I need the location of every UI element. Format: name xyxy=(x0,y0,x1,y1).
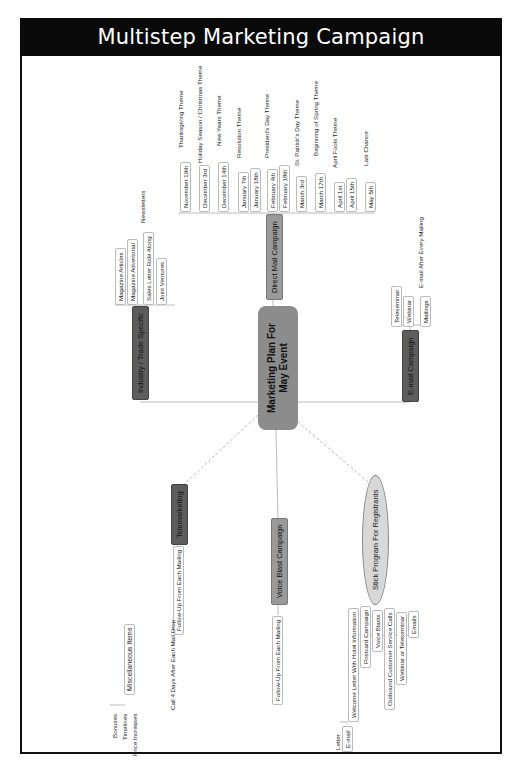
welcome-sub-item[interactable]: E-mail xyxy=(342,726,353,752)
email-item[interactable]: Webinar xyxy=(403,296,414,327)
date-node[interactable]: December 14th xyxy=(218,162,229,212)
stick-item[interactable]: Webinar or Teleseminar xyxy=(396,612,407,685)
branch-voice-blast[interactable]: Voice Blast Campaign xyxy=(271,518,288,605)
branch-email[interactable]: E-mail Campaign xyxy=(402,330,419,402)
date-node[interactable]: December 3rd xyxy=(199,165,210,212)
voice-blast-item[interactable]: Follow-Up From Each Mailing xyxy=(272,616,283,705)
industry-item[interactable]: Magazine Advertorial xyxy=(127,239,138,305)
branch-telemarketing[interactable]: Telemarketing xyxy=(171,484,188,545)
date-node[interactable]: March 17th xyxy=(315,173,326,212)
misc-item: Price Increases xyxy=(130,711,139,758)
date-node[interactable]: April 1st xyxy=(334,182,345,212)
central-topic-label: Marketing Plan For May Event xyxy=(266,323,289,413)
stick-item[interactable]: Welcome Letter With Hotel Information xyxy=(348,608,359,722)
misc-item: Timelines xyxy=(120,712,129,742)
industry-item[interactable]: Magazine Articles xyxy=(115,249,126,306)
branch-label: Telemarketing xyxy=(175,491,184,538)
theme-label: Thanksgiving Theme xyxy=(176,89,185,150)
misc-item: Bonuses xyxy=(110,712,119,740)
theme-label: April Fools Theme xyxy=(330,116,339,170)
date-node[interactable]: January 18th xyxy=(250,168,261,212)
date-node[interactable]: February 4th xyxy=(267,169,278,212)
date-node[interactable]: February 18th xyxy=(279,165,290,212)
branch-direct-mail[interactable]: Direct Mail Campaign xyxy=(266,214,283,300)
central-topic[interactable]: Marketing Plan For May Event xyxy=(258,306,298,430)
stick-item[interactable]: Voice Blasts xyxy=(372,610,383,652)
stick-item[interactable]: Postcard Campaign xyxy=(360,606,371,668)
industry-item[interactable]: Sales Letter Ride Along xyxy=(143,232,154,305)
telemarketing-note: Call 4 Days After Each Mail Drop xyxy=(168,618,177,712)
theme-label: Holiday Season / Christmas Theme xyxy=(195,64,204,165)
date-node[interactable]: March 3rd xyxy=(296,176,307,212)
theme-label: Resolution Theme xyxy=(234,106,243,160)
branch-stick-program[interactable]: Stick Program For Registrants xyxy=(362,475,389,605)
theme-label: New Years Theme xyxy=(214,94,223,148)
stick-item[interactable]: Outbound Customer Service Calls xyxy=(384,608,395,710)
misc-node[interactable]: Miscellaneous Items xyxy=(124,624,135,695)
date-node[interactable]: May 5th xyxy=(365,182,376,212)
branch-label: Stick Program For Registrants xyxy=(371,490,380,590)
newsletters-note: Newsletters xyxy=(138,189,147,225)
branch-label: Industry / Trade Specific xyxy=(136,313,145,393)
welcome-sub-item: Letter xyxy=(333,732,342,752)
stick-item[interactable]: Emails xyxy=(408,611,419,638)
branch-industry[interactable]: Industry / Trade Specific xyxy=(132,306,149,400)
date-node[interactable]: April 15th xyxy=(346,178,357,212)
industry-item[interactable]: Joint Ventures xyxy=(156,258,167,305)
theme-label: St. Patrick's Day Theme xyxy=(292,98,301,168)
branch-label: E-mail Campaign xyxy=(406,337,415,395)
date-node[interactable]: January 7th xyxy=(238,172,249,212)
theme-label: Beginning of Spring Theme xyxy=(311,79,320,158)
branch-label: Direct Mail Campaign xyxy=(270,221,279,293)
theme-label: Last Chance xyxy=(361,129,370,168)
theme-label: President's Day Theme xyxy=(262,92,271,160)
email-item[interactable]: Mailings xyxy=(420,296,431,327)
date-node[interactable]: November 19th xyxy=(180,162,191,212)
branch-label: Voice Blast Campaign xyxy=(275,525,284,598)
email-item[interactable]: Teleseminar xyxy=(391,286,402,327)
email-note: E-mail After Every Mailing xyxy=(416,215,425,290)
